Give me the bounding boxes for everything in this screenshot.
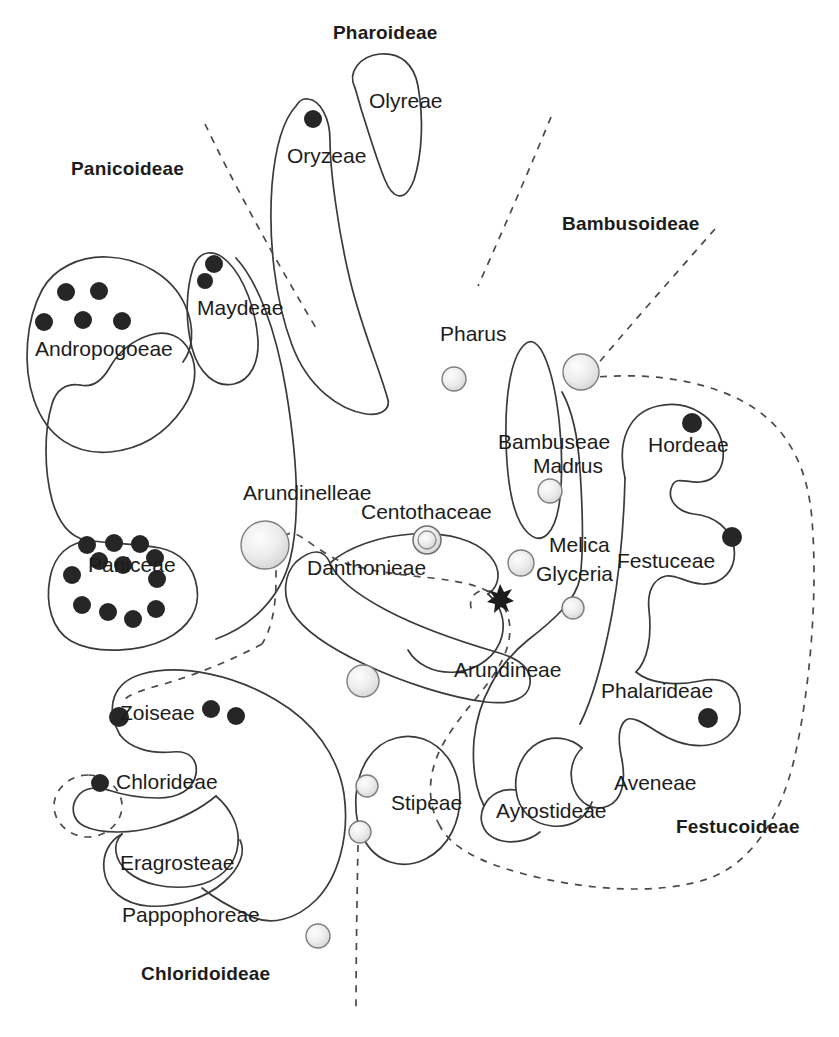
tribe-label-centothaceae: Centothaceae bbox=[361, 500, 492, 524]
light-marker-stipeae-lower bbox=[349, 821, 371, 843]
dashed-chloridoideae-lower-divider bbox=[356, 845, 358, 1012]
dark-dot-chlorideae-1 bbox=[91, 774, 109, 792]
dark-dot-paniceae-9 bbox=[99, 603, 117, 621]
light-marker-melica bbox=[508, 550, 534, 576]
dark-dot-andropogoeae-5 bbox=[113, 312, 131, 330]
tribe-label-melica: Melica bbox=[549, 533, 610, 557]
light-marker-stipeae-upper bbox=[356, 775, 378, 797]
tribe-label-chlorideae: Chlorideae bbox=[116, 770, 218, 794]
tribe-label-oryzeae: Oryzeae bbox=[287, 144, 366, 168]
tribe-label-hordeae: Hordeae bbox=[648, 433, 729, 457]
light-marker-centothaceae-inner bbox=[418, 531, 436, 549]
tribe-label-arundinelleae: Arundinelleae bbox=[243, 481, 371, 505]
tribe-label-andropogoeae: Andropogoeae bbox=[35, 337, 173, 361]
tribe-label-glyceria: Glyceria bbox=[536, 562, 613, 586]
dark-dot-oryzeae-1 bbox=[304, 110, 322, 128]
dark-dot-paniceae-2 bbox=[105, 534, 123, 552]
dark-dot-paniceae-3 bbox=[131, 535, 149, 553]
dark-dot-andropogoeae-3 bbox=[35, 313, 53, 331]
tribe-label-ayrostideae: Ayrostideae bbox=[496, 799, 607, 823]
light-marker-glyceria bbox=[562, 597, 584, 619]
dark-dot-paniceae-1 bbox=[78, 536, 96, 554]
dark-dot-paniceae-10 bbox=[124, 610, 142, 628]
light-marker-chloridoideae-outer bbox=[306, 924, 330, 948]
subfamily-label-pharoideae: Pharoideae bbox=[333, 22, 437, 44]
tribe-label-pharus: Pharus bbox=[440, 322, 507, 346]
tribe-label-olyreae: Olyreae bbox=[369, 89, 443, 113]
tribe-label-maydeae: Maydeae bbox=[197, 296, 283, 320]
tribe-label-madrus: Madrus bbox=[533, 454, 603, 478]
light-marker-bambuseae bbox=[563, 354, 599, 390]
outline-olyreae bbox=[353, 54, 422, 196]
dark-dot-andropogoeae-2 bbox=[90, 282, 108, 300]
dashed-pharoideae-bambusoideae-divider bbox=[478, 117, 551, 286]
outline-andropogoeae bbox=[27, 290, 195, 452]
star-marker-group bbox=[487, 584, 514, 613]
subfamily-label-chloridoideae: Chloridoideae bbox=[141, 963, 270, 985]
tribe-label-zoiseae: Zoiseae bbox=[120, 701, 195, 725]
dark-dot-hordeae-1 bbox=[682, 413, 702, 433]
subfamily-label-panicoideae: Panicoideae bbox=[71, 158, 184, 180]
dark-dot-andropogoeae-1 bbox=[57, 283, 75, 301]
tribe-label-pappophoreae: Pappophoreae bbox=[122, 903, 260, 927]
tribe-label-paniceae: Paniceae bbox=[88, 553, 176, 577]
dark-dot-maydeae-2 bbox=[197, 273, 213, 289]
tribe-label-arundineae: Arundineae bbox=[454, 658, 561, 682]
dark-dot-zoiseae-3 bbox=[227, 707, 245, 725]
dark-dot-phalarideae-1 bbox=[698, 708, 718, 728]
tribe-label-aveneae: Aveneae bbox=[614, 771, 697, 795]
tribe-label-phalarideae: Phalarideae bbox=[601, 679, 713, 703]
light-marker-arundinelleae bbox=[241, 521, 289, 569]
outline-chlorideae bbox=[73, 788, 216, 832]
outline-panicoideae-body bbox=[46, 385, 92, 541]
star-marker bbox=[487, 584, 514, 613]
tribe-label-festuceae: Festuceae bbox=[617, 549, 715, 573]
dark-dot-andropogoeae-4 bbox=[74, 311, 92, 329]
grass-taxonomy-diagram: Pharoideae Panicoideae Bambusoideae Fest… bbox=[0, 0, 839, 1037]
dark-dot-zoiseae-2 bbox=[202, 700, 220, 718]
dashed-bambusoideae-upper-divider bbox=[586, 229, 715, 378]
light-marker-pharus bbox=[442, 367, 466, 391]
dark-dot-festuceae-1 bbox=[722, 527, 742, 547]
tribe-label-stipeae: Stipeae bbox=[391, 791, 462, 815]
light-marker-arundineae bbox=[347, 665, 379, 697]
subfamily-label-bambusoideae: Bambusoideae bbox=[562, 213, 700, 235]
dark-dot-paniceae-11 bbox=[147, 600, 165, 618]
subfamily-label-festucoideae: Festucoideae bbox=[676, 816, 800, 838]
tribe-label-eragrosteae: Eragrosteae bbox=[120, 851, 234, 875]
dark-dot-paniceae-8 bbox=[73, 596, 91, 614]
tribe-label-danthonieae: Danthonieae bbox=[307, 556, 426, 580]
tribe-label-bambuseae: Bambuseae bbox=[498, 430, 610, 454]
dark-dot-paniceae-7 bbox=[63, 566, 81, 584]
dark-dot-maydeae-1 bbox=[205, 255, 223, 273]
light-marker-madrus bbox=[538, 479, 562, 503]
